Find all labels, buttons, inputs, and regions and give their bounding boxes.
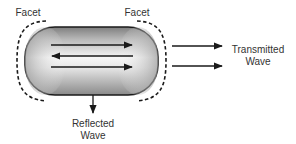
reflected-wave-label-line2: Wave: [80, 130, 106, 141]
transmitted-wave-label-line2: Wave: [245, 56, 271, 67]
gain-medium-cavity: [25, 27, 158, 95]
laser-cavity-diagram: Facet Facet Transmitted Wave Reflected W…: [0, 0, 296, 144]
facet-label-right: Facet: [124, 7, 149, 18]
reflected-wave-label-line1: Reflected: [72, 118, 114, 129]
facet-label-left: Facet: [15, 7, 40, 18]
transmitted-wave-label-line1: Transmitted: [232, 44, 284, 55]
transmitted-wave-arrows: [172, 46, 222, 66]
